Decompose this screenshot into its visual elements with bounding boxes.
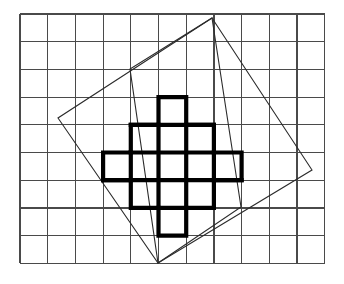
geometry-figure-svg: [0, 0, 344, 284]
figure-canvas: [0, 0, 344, 284]
